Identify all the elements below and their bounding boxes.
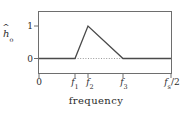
x-tick-0-base: 0 xyxy=(36,77,42,87)
y-axis-label: ho xyxy=(3,29,13,42)
x-tick-label-f3: f3 xyxy=(120,78,127,89)
x-tick-2-sub: 2 xyxy=(90,83,94,91)
x-tick-4-tail: /2 xyxy=(171,77,180,87)
x-axis-label: frequency xyxy=(0,95,192,106)
x-tick-label-f2: f2 xyxy=(86,78,93,89)
x-tick-1-sub: 1 xyxy=(75,83,79,91)
filter-response-figure: 1 0 0 f1 f2 f3 fs/2 ho frequency xyxy=(0,0,192,114)
y-axis-label-sub: o xyxy=(9,36,13,44)
x-tick-3-sub: 3 xyxy=(124,83,128,91)
x-tick-marks xyxy=(39,74,171,78)
x-tick-4-sub: s xyxy=(168,83,171,91)
y-tick-marks xyxy=(34,26,38,59)
x-tick-label-f1: f1 xyxy=(71,78,78,89)
x-tick-label-fs-over-2: fs/2 xyxy=(164,78,179,89)
x-tick-label-0: 0 xyxy=(36,78,42,87)
y-tick-label-0: 0 xyxy=(24,54,33,63)
response-curve xyxy=(39,26,171,59)
y-tick-label-1: 1 xyxy=(24,22,33,31)
